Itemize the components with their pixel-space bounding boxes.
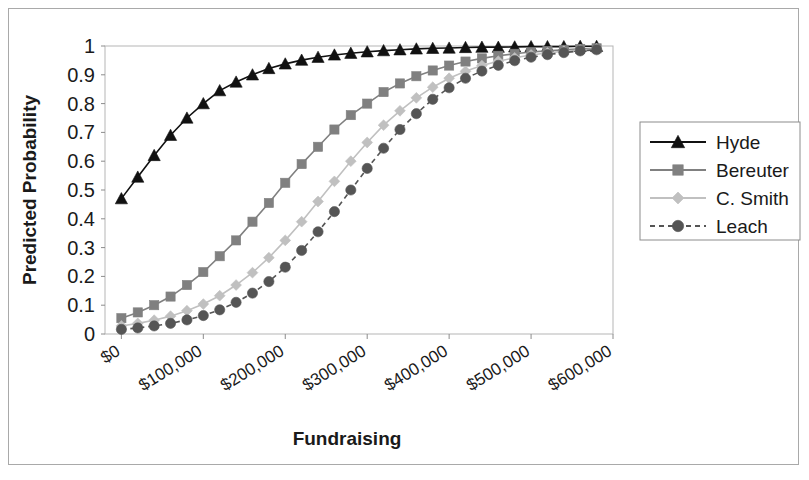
data-point (329, 207, 339, 217)
data-point (592, 45, 602, 55)
data-point (362, 163, 372, 173)
data-point (346, 111, 355, 120)
data-point (133, 308, 142, 317)
data-point (428, 94, 438, 104)
data-point (411, 109, 421, 119)
data-point (215, 305, 225, 315)
data-point (264, 276, 274, 286)
x-axis-title: Fundraising (293, 428, 402, 449)
data-point (116, 324, 126, 334)
y-axis-tick-label: 0.2 (67, 265, 95, 287)
data-point (280, 262, 290, 272)
data-point (198, 310, 208, 320)
legend-label-c-smith: C. Smith (716, 188, 789, 209)
x-axis-tick-label: $400,000 (381, 341, 451, 395)
legend-marker-bereuter (673, 165, 683, 175)
y-axis-tick-label: 0.7 (67, 121, 95, 143)
chart-figure: 00.10.20.30.40.50.60.70.80.91$0$100,000$… (0, 0, 809, 480)
y-axis-tick-label: 0.8 (67, 93, 95, 115)
data-point (247, 288, 257, 298)
x-axis-tick-label: $200,000 (217, 341, 287, 395)
data-point (378, 143, 388, 153)
data-point (559, 48, 569, 58)
data-point (526, 52, 536, 62)
y-axis-tick-label: 0.1 (67, 294, 95, 316)
legend-label-leach: Leach (716, 216, 768, 237)
legend-marker-leach (672, 220, 683, 231)
y-axis-tick-label: 0.6 (67, 150, 95, 172)
data-point (330, 125, 339, 134)
data-point (510, 56, 520, 66)
data-point (575, 46, 585, 56)
data-point (379, 87, 388, 96)
y-axis-tick-label: 0.3 (67, 237, 95, 259)
data-point (281, 178, 290, 187)
data-point (215, 252, 224, 261)
data-point (460, 73, 470, 83)
x-axis-tick-label: $0 (97, 341, 123, 367)
plot-area (105, 46, 613, 334)
y-axis-tick-label: 0.9 (67, 64, 95, 86)
data-point (477, 66, 487, 76)
predicted-probability-chart: 00.10.20.30.40.50.60.70.80.91$0$100,000$… (0, 0, 809, 480)
x-axis-tick-label: $500,000 (463, 341, 533, 395)
data-point (428, 66, 437, 75)
legend: HydeBereuterC. SmithLeach (640, 122, 800, 240)
data-point (493, 60, 503, 70)
data-point (149, 321, 159, 331)
data-point (182, 280, 191, 289)
data-point (412, 72, 421, 81)
y-axis-tick-label: 0.5 (67, 179, 95, 201)
data-point (231, 236, 240, 245)
data-point (248, 217, 257, 226)
data-point (461, 57, 470, 66)
data-point (150, 301, 159, 310)
data-point (297, 245, 307, 255)
data-point (297, 159, 306, 168)
data-point (395, 79, 404, 88)
data-point (313, 227, 323, 237)
x-axis-tick-label: $600,000 (545, 341, 615, 395)
legend-label-hyde: Hyde (716, 132, 760, 153)
y-axis-tick-label: 0 (84, 323, 95, 345)
data-point (346, 185, 356, 195)
x-axis-tick-label: $300,000 (299, 341, 369, 395)
y-axis-title: Predicted Probability (19, 95, 40, 285)
data-point (445, 61, 454, 70)
x-axis-tick-label: $100,000 (135, 341, 205, 395)
data-point (395, 124, 405, 134)
data-point (165, 318, 175, 328)
data-point (166, 292, 175, 301)
y-axis-tick-label: 1 (84, 35, 95, 57)
data-point (542, 50, 552, 60)
data-point (133, 323, 143, 333)
data-point (199, 267, 208, 276)
data-point (264, 198, 273, 207)
data-point (231, 297, 241, 307)
data-point (444, 83, 454, 93)
data-point (363, 99, 372, 108)
y-axis-tick-label: 0.4 (67, 208, 95, 230)
legend-label-bereuter: Bereuter (716, 160, 790, 181)
data-point (313, 142, 322, 151)
data-point (182, 315, 192, 325)
